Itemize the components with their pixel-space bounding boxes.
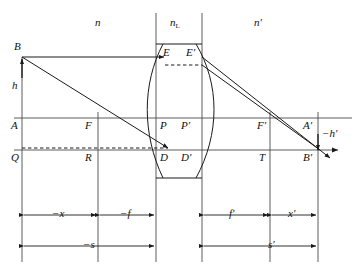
optics-ray-diagram: n nL n′ B h A Q F R E E′ P P′ D D′ F′ T … — [0, 0, 364, 272]
point-label-P: P — [160, 120, 167, 131]
dim-label-f-prime: f′ — [229, 208, 234, 219]
ray-parallel-refracted — [202, 65, 320, 150]
dim-label-minus-f: −f — [120, 208, 130, 219]
ray-chief-emergent — [202, 57, 330, 158]
point-label-T: T — [259, 152, 265, 163]
point-label-Q: Q — [11, 152, 19, 163]
point-label-R: R — [85, 152, 92, 163]
point-label-A: A — [11, 120, 18, 131]
subscript-L: L — [176, 22, 180, 30]
dim-label-minus-s: −s — [83, 239, 95, 250]
point-label-D: D — [160, 152, 168, 163]
point-label-D-prime: D′ — [181, 152, 191, 163]
point-label-B-prime: B′ — [303, 152, 312, 163]
media-label-n: n — [95, 17, 101, 28]
point-label-F-prime: F′ — [257, 120, 266, 131]
point-label-B: B — [14, 41, 21, 52]
ray-chief-incident — [22, 57, 168, 148]
media-label-n-L: nL — [170, 17, 180, 30]
diagram-canvas — [0, 0, 364, 272]
dim-label-minus-x: −x — [52, 208, 64, 219]
point-label-P-prime: P′ — [181, 120, 190, 131]
point-label-h: h — [12, 80, 18, 91]
image-height-label: −h′ — [322, 128, 337, 139]
point-label-A-prime: A′ — [303, 120, 312, 131]
rays — [22, 57, 330, 158]
media-label-n-prime: n′ — [254, 17, 262, 28]
point-label-E: E — [163, 47, 170, 58]
point-label-F: F — [85, 120, 92, 131]
object-image-arrows — [22, 59, 318, 150]
vertical-reference-lines — [22, 13, 318, 262]
construction-dashes — [22, 65, 202, 148]
point-label-E-prime: E′ — [186, 47, 195, 58]
dim-label-s-prime: s′ — [268, 239, 275, 250]
dim-label-x-prime: x′ — [288, 208, 295, 219]
